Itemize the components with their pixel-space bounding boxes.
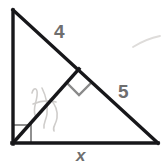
- segment-label-lower-hypotenuse: 5: [118, 82, 129, 101]
- triangle-drawing: [0, 0, 164, 168]
- triangle-outline: [12, 10, 158, 144]
- right-angle-marker-altitude: [66, 82, 92, 95]
- geometry-figure: 4 5 x: [0, 0, 164, 168]
- segment-label-base-unknown: x: [76, 147, 85, 164]
- altitude-segment: [13, 69, 79, 143]
- segment-label-upper-hypotenuse: 4: [54, 22, 65, 41]
- stray-pencil-mark: [133, 36, 160, 47]
